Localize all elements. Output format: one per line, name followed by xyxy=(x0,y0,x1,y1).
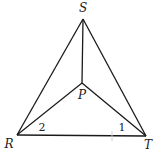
vertex-label-T: T xyxy=(144,138,153,152)
angle-label-2: 2 xyxy=(39,121,46,134)
vertex-label-R: R xyxy=(3,137,13,151)
segment-TP xyxy=(82,83,146,136)
segment-SR xyxy=(17,19,83,135)
segment-RT xyxy=(17,135,146,136)
segment-SP xyxy=(82,19,83,83)
triangle-diagram: S R T P 2 1 xyxy=(0,0,162,154)
vertex-label-S: S xyxy=(79,1,87,15)
angle-label-1: 1 xyxy=(119,121,126,134)
vertex-label-P: P xyxy=(77,88,87,102)
segment-RP xyxy=(17,83,82,135)
segment-ST xyxy=(83,19,146,136)
